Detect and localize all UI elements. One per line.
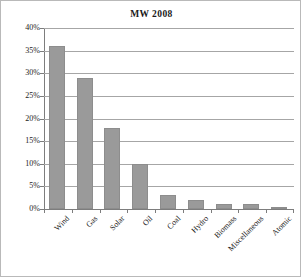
x-axis-tick-mark	[155, 209, 156, 213]
bar-coal	[160, 195, 176, 209]
x-axis-tick-label: Gas	[84, 214, 99, 229]
x-axis-tick-mark	[72, 209, 73, 213]
x-axis-tick-label: Hydro	[189, 214, 210, 235]
y-axis-tick-labels: 0%5%10%15%20%25%30%35%40%	[1, 28, 40, 209]
x-axis-tick-label: Wind	[53, 214, 72, 233]
x-axis-tick-mark	[100, 209, 101, 213]
x-axis-tick-label: Biomass	[212, 214, 238, 240]
y-axis-tick-label: 15%	[1, 137, 40, 145]
x-axis-tick-mark	[183, 209, 184, 213]
x-axis-tick-marks	[44, 209, 294, 213]
x-axis-tick-labels: WindGasSolarOilCoalHydroBiomassMiscellan…	[44, 214, 296, 276]
x-axis-tick-label: Oil	[141, 214, 155, 228]
y-axis-tick-label: 25%	[1, 92, 40, 100]
y-axis-tick-label: 5%	[1, 182, 40, 190]
chart-title: MW 2008	[1, 9, 301, 19]
x-axis-tick-mark	[211, 209, 212, 213]
bar-gas	[77, 78, 93, 209]
x-axis-tick-label: Solar	[108, 214, 126, 232]
bar-series	[44, 28, 294, 209]
y-axis-tick-label: 0%	[1, 205, 40, 213]
x-axis-tick-mark	[293, 209, 294, 213]
y-axis-tick-label: 20%	[1, 115, 40, 123]
x-axis-tick-label: Atomic	[270, 214, 293, 237]
bar-hydro	[188, 200, 204, 209]
bar-oil	[132, 164, 148, 209]
plot-area	[44, 28, 294, 209]
y-axis-tick-label: 35%	[1, 47, 40, 55]
bar-wind	[49, 46, 65, 209]
x-axis-tick-mark	[44, 209, 45, 213]
x-axis-tick-mark	[127, 209, 128, 213]
x-axis-tick-mark	[266, 209, 267, 213]
y-axis-tick-label: 30%	[1, 69, 40, 77]
x-axis-tick-mark	[238, 209, 239, 213]
y-axis-tick-label: 10%	[1, 160, 40, 168]
bar-solar	[104, 128, 120, 209]
chart-figure: MW 2008 0%5%10%15%20%25%30%35%40% WindGa…	[0, 0, 301, 277]
y-axis-tick-label: 40%	[1, 24, 40, 32]
x-axis-tick-label: Coal	[165, 214, 182, 231]
